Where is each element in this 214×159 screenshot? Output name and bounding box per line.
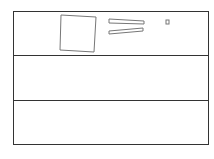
bar-bottom xyxy=(109,28,143,34)
bar-top xyxy=(109,19,144,24)
small-square xyxy=(166,20,169,24)
large-square xyxy=(60,15,96,52)
top-panel-shapes xyxy=(0,0,214,159)
